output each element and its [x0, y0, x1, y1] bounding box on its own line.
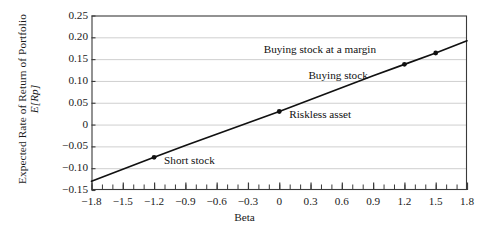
chart-figure: Expected Rate of Return of Portfolio E[R… — [0, 0, 489, 234]
plot-background — [92, 16, 468, 191]
annotation-label: Short stock — [164, 155, 215, 167]
data-point-marker[interactable] — [277, 109, 282, 114]
data-point-marker[interactable] — [152, 155, 157, 160]
annotation-label: Buying stock at a margin — [264, 44, 376, 56]
plot-area — [0, 0, 489, 234]
annotation-label: Buying stock — [308, 70, 367, 82]
data-point-marker[interactable] — [402, 62, 407, 67]
annotation-label: Riskless asset — [289, 109, 351, 121]
data-point-marker[interactable] — [433, 51, 438, 56]
